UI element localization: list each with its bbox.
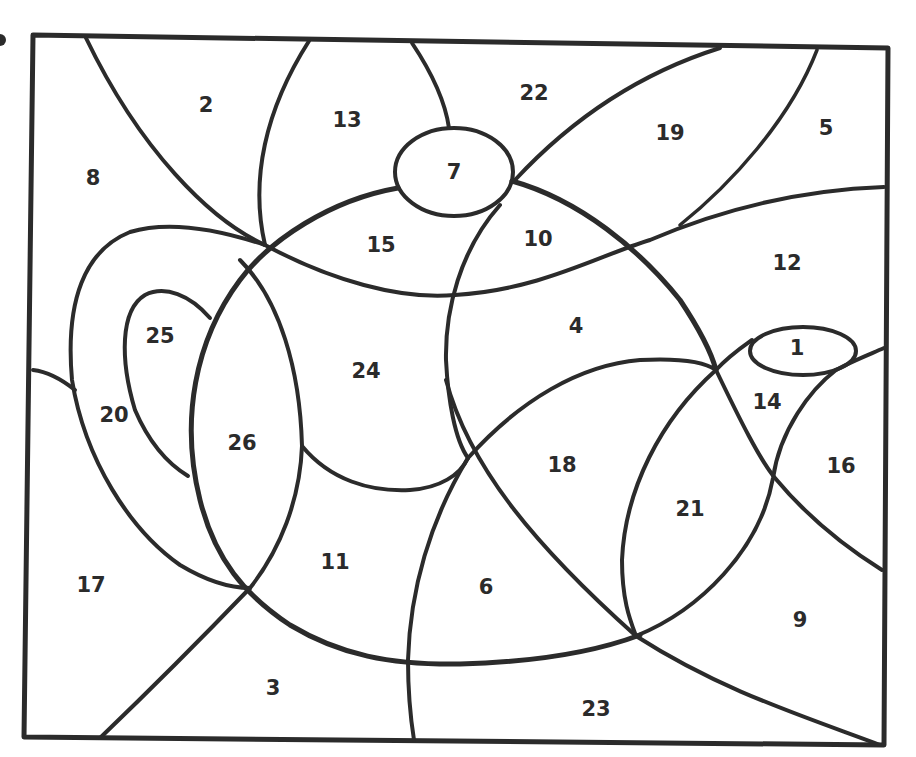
region-label: 9 — [793, 608, 808, 632]
arc-26-right — [240, 260, 302, 588]
region-label: 25 — [145, 324, 174, 348]
arc-4-left — [446, 205, 500, 458]
region-label: 26 — [227, 431, 256, 455]
corner-mark — [0, 34, 6, 46]
region-label: 22 — [519, 81, 548, 105]
puzzle-canvas: 1 2 3 4 5 6 7 8 9 10 11 12 13 14 15 16 1… — [0, 0, 916, 757]
region-label: 10 — [523, 227, 552, 251]
region-label: 5 — [819, 116, 834, 140]
region-label: 13 — [332, 108, 361, 132]
region-label: 6 — [479, 575, 494, 599]
region-label: 2 — [199, 93, 214, 117]
arc-16-top — [836, 348, 884, 370]
arc-24-bottom — [302, 446, 468, 490]
region-label: 4 — [569, 314, 584, 338]
spout-line — [716, 340, 752, 370]
region-label: 20 — [99, 403, 128, 427]
region-label: 14 — [752, 390, 781, 414]
arc-3-17 — [100, 588, 250, 738]
region-label: 24 — [351, 359, 380, 383]
region-label: 7 — [447, 160, 462, 184]
region-label: 1 — [790, 336, 805, 360]
region-label: 23 — [581, 697, 610, 721]
region-label: 8 — [86, 166, 101, 190]
region-label: 18 — [547, 453, 576, 477]
region-label: 3 — [266, 676, 281, 700]
arc-17-top — [33, 370, 75, 390]
region-label: 15 — [366, 233, 395, 257]
region-label: 16 — [826, 454, 855, 478]
teapot-body-right-upper — [512, 181, 716, 370]
arc-14-16 — [716, 370, 882, 570]
arc-6-left — [408, 458, 468, 740]
arc-19-upper — [515, 48, 720, 180]
region-label: 19 — [655, 121, 684, 145]
region-label: 21 — [675, 497, 704, 521]
region-label: 17 — [76, 573, 105, 597]
arc-top-bowl — [86, 38, 884, 296]
region-label: 12 — [772, 251, 801, 275]
arc-13-left — [259, 41, 309, 245]
arc-19-5 — [680, 50, 817, 225]
region-label: 11 — [320, 550, 349, 574]
arc-13-right — [412, 43, 449, 128]
